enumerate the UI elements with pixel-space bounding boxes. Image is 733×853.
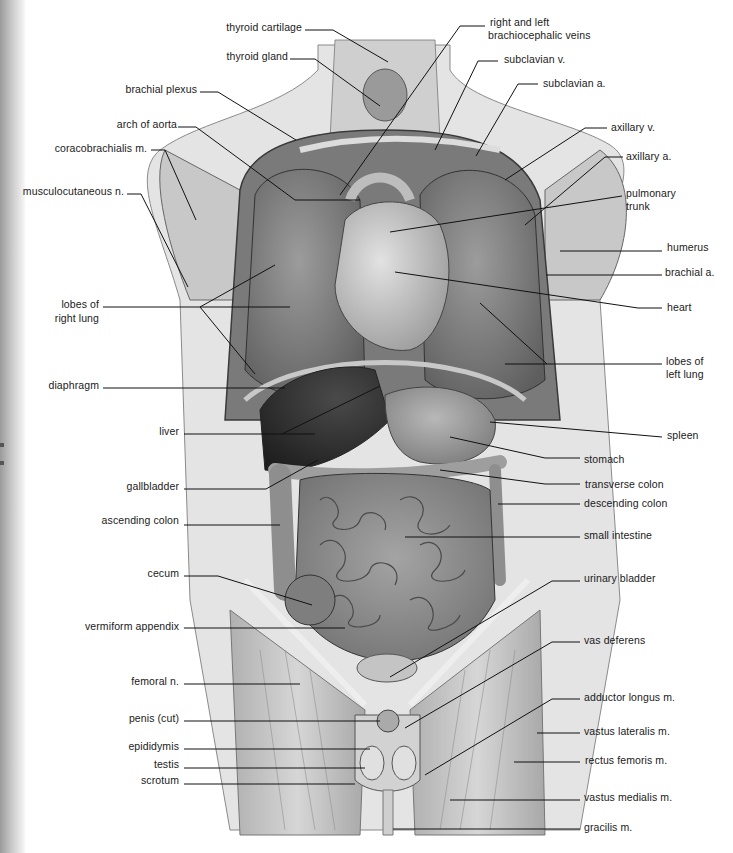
label-adductor-longus: adductor longus m. [584, 691, 675, 704]
label-liver: liver [159, 425, 179, 438]
label-descending-colon: descending colon [584, 497, 667, 510]
label-thyroid-gland: thyroid gland [227, 50, 288, 63]
label-lobes-of-right-lung-line1: lobes of [61, 298, 99, 311]
label-subclavian-a: subclavian a. [543, 77, 606, 90]
label-brachiocephalic-veins-line1: right and left [490, 16, 549, 29]
label-urinary-bladder: urinary bladder [584, 572, 656, 585]
cecum [285, 575, 335, 625]
label-axillary-v: axillary v. [611, 121, 655, 134]
penis-shaft [383, 790, 393, 835]
ascending-colon [280, 475, 285, 590]
label-gallbladder: gallbladder [127, 480, 179, 493]
label-gracilis: gracilis m. [584, 821, 632, 834]
label-lobes-of-left-lung-line2: left lung [666, 368, 704, 381]
label-axillary-a: axillary a. [626, 150, 671, 163]
label-spleen: spleen [667, 429, 699, 442]
label-scrotum: scrotum [141, 774, 179, 787]
label-rectus-femoris: rectus femoris m. [585, 754, 667, 767]
label-epididymis: epididymis [128, 740, 179, 753]
thyroid [363, 69, 407, 121]
label-penis-cut: penis (cut) [129, 712, 179, 725]
label-brachiocephalic-veins-line2: brachiocephalic veins [488, 29, 591, 42]
label-ascending-colon: ascending colon [102, 514, 179, 527]
label-pulmonary-trunk-line2: trunk [626, 200, 650, 213]
descending-colon [495, 470, 500, 580]
label-vastus-medialis: vastus medialis m. [584, 791, 672, 804]
label-testis: testis [154, 758, 179, 771]
label-vas-deferens: vas deferens [584, 634, 645, 647]
label-humerus: humerus [667, 241, 709, 254]
label-brachial-plexus: brachial plexus [125, 83, 197, 96]
label-small-intestine: small intestine [584, 529, 652, 542]
label-arch-of-aorta: arch of aorta [117, 118, 177, 131]
label-stomach: stomach [584, 453, 624, 466]
label-pulmonary-trunk-line1: pulmonary [626, 187, 676, 200]
label-thyroid-cartilage: thyroid cartilage [226, 21, 302, 34]
label-brachial-a: brachial a. [665, 266, 715, 279]
label-lobes-of-left-lung-line1: lobes of [666, 355, 704, 368]
testis-left [392, 746, 416, 780]
label-heart: heart [667, 301, 691, 314]
label-lobes-of-right-lung-line2: right lung [55, 312, 99, 325]
label-subclavian-v: subclavian v. [504, 53, 565, 66]
testis-right [360, 746, 384, 780]
label-femoral-n: femoral n. [131, 675, 179, 688]
label-coracobrachialis: coracobrachialis m. [55, 142, 147, 155]
label-vastus-lateralis: vastus lateralis m. [584, 725, 670, 738]
urinary-bladder [357, 654, 417, 682]
label-vermiform-appendix: vermiform appendix [85, 620, 179, 633]
label-cecum: cecum [148, 567, 179, 580]
label-diaphragm: diaphragm [48, 379, 99, 392]
label-transverse-colon: transverse colon [585, 478, 664, 491]
label-musculocutaneous: musculocutaneous n. [23, 185, 124, 198]
penis-cut [377, 710, 399, 732]
